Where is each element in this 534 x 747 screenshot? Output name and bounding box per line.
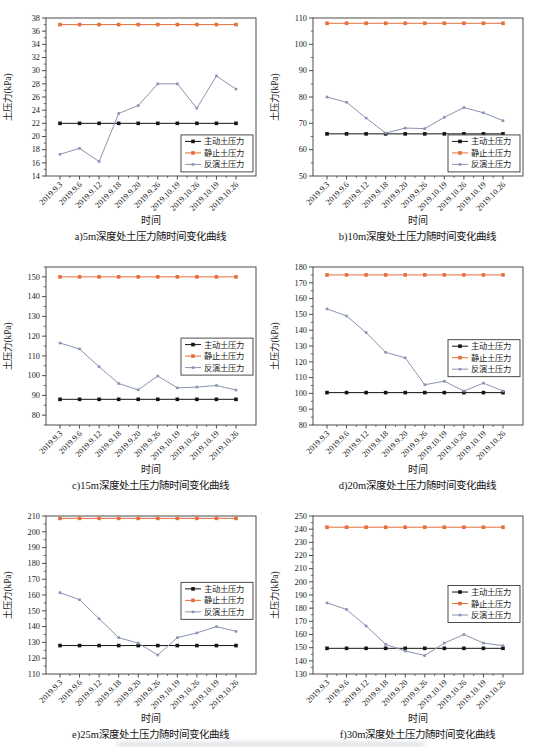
svg-text:140: 140: [295, 326, 307, 335]
svg-text:210: 210: [295, 564, 307, 573]
svg-text:180: 180: [28, 559, 40, 568]
svg-text:80: 80: [299, 421, 307, 430]
chart-e-caption: e)25m深度处土压力随时间变化曲线: [0, 728, 267, 742]
svg-text:主动土压力: 主动土压力: [471, 587, 511, 597]
svg-text:110: 110: [295, 14, 307, 23]
svg-text:36: 36: [32, 27, 40, 36]
svg-text:静止土压力: 静止土压力: [204, 351, 244, 361]
svg-text:70: 70: [299, 119, 307, 128]
chart-b-caption: b)10m深度处土压力随时间变化曲线: [267, 230, 534, 244]
svg-text:200: 200: [28, 528, 40, 537]
svg-text:120: 120: [28, 332, 40, 341]
chart-c-plot: 80901001101201301401502019.9.32019.9.620…: [0, 254, 267, 479]
chart-panel-c: 80901001101201301401502019.9.32019.9.620…: [0, 249, 267, 498]
svg-text:230: 230: [295, 538, 307, 547]
chart-d-caption: d)20m深度处土压力随时间变化曲线: [267, 479, 534, 493]
svg-text:80: 80: [299, 93, 307, 102]
svg-text:90: 90: [299, 66, 307, 75]
svg-text:110: 110: [28, 670, 40, 679]
svg-text:180: 180: [295, 263, 307, 272]
svg-text:土压力(kPa): 土压力(kPa): [269, 73, 281, 120]
svg-text:16: 16: [32, 159, 40, 168]
svg-text:110: 110: [295, 373, 307, 382]
svg-text:190: 190: [28, 543, 40, 552]
svg-text:32: 32: [32, 53, 40, 62]
svg-text:150: 150: [295, 310, 307, 319]
svg-text:140: 140: [28, 622, 40, 631]
svg-text:130: 130: [28, 312, 40, 321]
svg-text:20: 20: [32, 132, 40, 141]
svg-text:主动土压力: 主动土压力: [471, 341, 511, 351]
svg-text:34: 34: [32, 40, 41, 49]
chart-d-plot: 80901001101201301401501601701802019.9.32…: [267, 254, 534, 479]
chart-e-plot: 1101201301401501601701801902002102019.9.…: [0, 503, 267, 728]
svg-text:静止土压力: 静止土压力: [471, 353, 511, 363]
svg-text:24: 24: [32, 106, 41, 115]
svg-text:反演土压力: 反演土压力: [471, 159, 511, 169]
svg-text:100: 100: [295, 40, 307, 49]
svg-text:主动土压力: 主动土压力: [471, 136, 511, 146]
svg-text:220: 220: [295, 551, 307, 560]
svg-text:22: 22: [32, 119, 40, 128]
svg-text:160: 160: [28, 591, 40, 600]
svg-text:时间: 时间: [408, 214, 428, 226]
chart-c-caption: c)15m深度处土压力随时间变化曲线: [0, 479, 267, 493]
svg-text:60: 60: [299, 145, 307, 154]
svg-text:土压力(kPa): 土压力(kPa): [269, 322, 281, 369]
svg-text:140: 140: [28, 292, 40, 301]
svg-text:主动土压力: 主动土压力: [204, 584, 244, 594]
chart-panel-b: 50607080901001102019.9.32019.9.62019.9.1…: [267, 0, 534, 249]
chart-b-plot: 50607080901001102019.9.32019.9.62019.9.1…: [267, 5, 534, 230]
svg-text:反演土压力: 反演土压力: [471, 364, 511, 374]
earth-pressure-figure-grid: 141618202224262830323436382019.9.32019.9…: [0, 0, 534, 747]
svg-text:土压力(kPa): 土压力(kPa): [2, 571, 14, 618]
svg-text:120: 120: [295, 358, 307, 367]
svg-text:120: 120: [28, 654, 40, 663]
svg-text:90: 90: [299, 405, 307, 414]
svg-text:170: 170: [295, 617, 307, 626]
chart-panel-d: 80901001101201301401501601701802019.9.32…: [267, 249, 534, 498]
svg-text:80: 80: [32, 411, 40, 420]
svg-text:26: 26: [32, 93, 40, 102]
svg-text:130: 130: [295, 670, 307, 679]
svg-text:14: 14: [32, 172, 41, 181]
svg-text:反演土压力: 反演土压力: [204, 607, 244, 617]
chart-a-caption: a)5m深度处土压力随时间变化曲线: [0, 230, 267, 244]
svg-text:时间: 时间: [408, 463, 428, 475]
svg-text:反演土压力: 反演土压力: [204, 159, 244, 169]
svg-text:时间: 时间: [141, 712, 161, 724]
svg-text:时间: 时间: [141, 214, 161, 226]
svg-text:静止土压力: 静止土压力: [204, 148, 244, 158]
svg-text:30: 30: [32, 66, 40, 75]
figure-page: { "shared": { "x_labels": ["2019.9.3","2…: [0, 0, 534, 747]
svg-text:100: 100: [295, 389, 307, 398]
svg-text:110: 110: [28, 352, 40, 361]
svg-text:190: 190: [295, 591, 307, 600]
svg-text:160: 160: [295, 630, 307, 639]
chart-panel-e: 1101201301401501601701801902002102019.9.…: [0, 498, 267, 747]
svg-text:100: 100: [28, 371, 40, 380]
svg-text:28: 28: [32, 80, 40, 89]
svg-text:150: 150: [28, 607, 40, 616]
svg-text:170: 170: [28, 575, 40, 584]
svg-text:主动土压力: 主动土压力: [204, 340, 244, 350]
svg-text:130: 130: [28, 638, 40, 647]
svg-text:140: 140: [295, 657, 307, 666]
chart-f-caption: f)30m深度处土压力随时间变化曲线: [267, 728, 534, 742]
svg-text:160: 160: [295, 294, 307, 303]
chart-panel-f: 1301401501601701801902002102202302402502…: [267, 498, 534, 747]
cropped-bottom-caption-remnant: [118, 742, 424, 747]
svg-text:土压力(kPa): 土压力(kPa): [2, 73, 14, 120]
svg-text:170: 170: [295, 279, 307, 288]
svg-text:90: 90: [32, 391, 40, 400]
svg-text:210: 210: [28, 512, 40, 521]
svg-text:静止土压力: 静止土压力: [471, 148, 511, 158]
svg-text:土压力(kPa): 土压力(kPa): [269, 571, 281, 618]
svg-text:18: 18: [32, 145, 40, 154]
chart-panel-a: 141618202224262830323436382019.9.32019.9…: [0, 0, 267, 249]
svg-text:时间: 时间: [408, 712, 428, 724]
svg-text:38: 38: [32, 14, 40, 23]
svg-text:200: 200: [295, 578, 307, 587]
svg-text:时间: 时间: [141, 463, 161, 475]
svg-text:静止土压力: 静止土压力: [471, 599, 511, 609]
